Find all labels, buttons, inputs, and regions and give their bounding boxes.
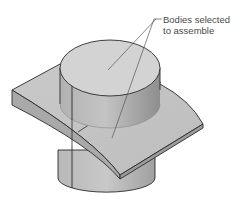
callout-label-line2: to assemble [163, 25, 214, 36]
callout-label-line1: Bodies selected [163, 14, 230, 25]
upper-cylinder [60, 40, 160, 128]
cad-figure: Bodies selected to assemble [0, 0, 241, 200]
